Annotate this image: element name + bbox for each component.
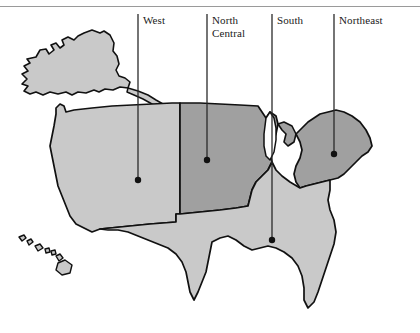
census-region-map-figure: West North Central South Northeast	[0, 0, 420, 333]
region-north-central-lakes	[278, 122, 296, 146]
lake-michigan-cutout	[264, 112, 276, 160]
callout-label-west: West	[143, 14, 165, 27]
callout-dot-north-central	[204, 157, 210, 163]
callout-dot-west	[135, 177, 141, 183]
callout-label-north-central: North Central	[212, 14, 245, 39]
callout-label-south: South	[277, 14, 303, 27]
callout-dot-south	[269, 237, 275, 243]
region-alaska	[22, 30, 130, 95]
region-northeast	[294, 110, 372, 188]
us-map-svg	[0, 0, 420, 333]
callout-label-northeast: Northeast	[339, 14, 383, 27]
region-west	[50, 103, 180, 232]
callout-dot-northeast	[331, 151, 337, 157]
region-hawaii	[19, 235, 72, 275]
